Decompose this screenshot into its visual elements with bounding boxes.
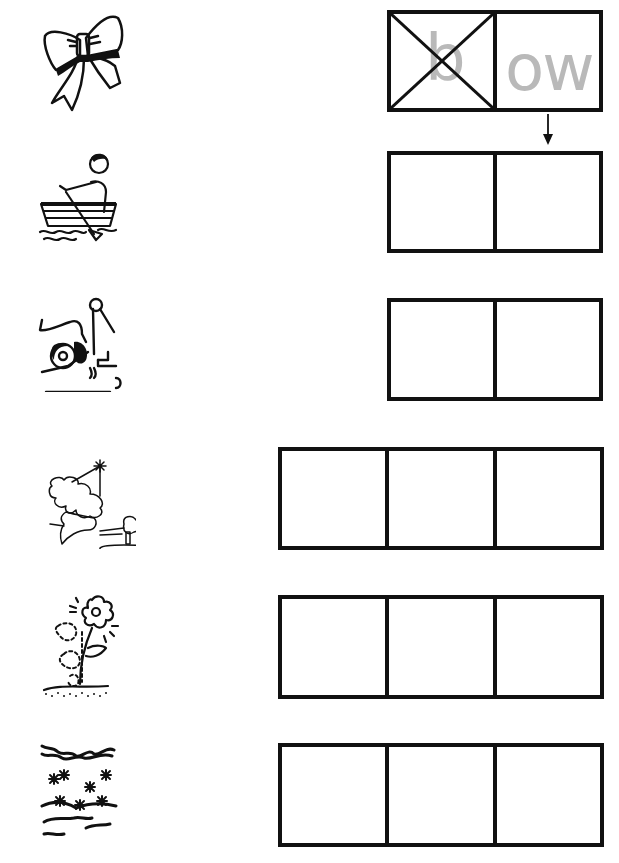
answer-boxes-row-6	[278, 743, 604, 847]
letter-box[interactable]	[391, 302, 497, 397]
letter-box-example-b: b	[391, 14, 497, 108]
growing-flower-icon	[40, 592, 120, 697]
answer-boxes-row-5	[278, 595, 604, 699]
answer-boxes-row-1: b ow	[387, 10, 603, 112]
letter-box[interactable]	[391, 155, 497, 249]
letter-box[interactable]	[389, 451, 496, 546]
letter-box[interactable]	[497, 451, 600, 546]
letter-box[interactable]	[282, 747, 389, 843]
answer-boxes-row-3	[387, 298, 603, 401]
answer-boxes-row-2	[387, 151, 603, 253]
snowflakes	[49, 770, 111, 810]
down-arrow-icon	[541, 114, 555, 146]
tow-truck-icon	[38, 292, 123, 392]
letter-box[interactable]	[389, 747, 496, 843]
letter-box[interactable]	[282, 599, 389, 695]
bow-icon	[40, 8, 125, 113]
letter-box[interactable]	[389, 599, 496, 695]
answer-boxes-row-4	[278, 447, 604, 550]
sample-letters: ow	[505, 36, 593, 100]
letter-box[interactable]	[282, 451, 389, 546]
letter-box[interactable]	[497, 302, 599, 397]
letter-box[interactable]	[497, 747, 600, 843]
letter-box-example-ow: ow	[497, 14, 599, 108]
blowing-candle-icon	[24, 444, 136, 549]
letter-box[interactable]	[497, 155, 599, 249]
snow-icon	[40, 744, 120, 844]
cross-out-mark	[391, 14, 493, 108]
letter-box[interactable]	[497, 599, 600, 695]
boy-rowing-boat-icon	[36, 148, 121, 243]
